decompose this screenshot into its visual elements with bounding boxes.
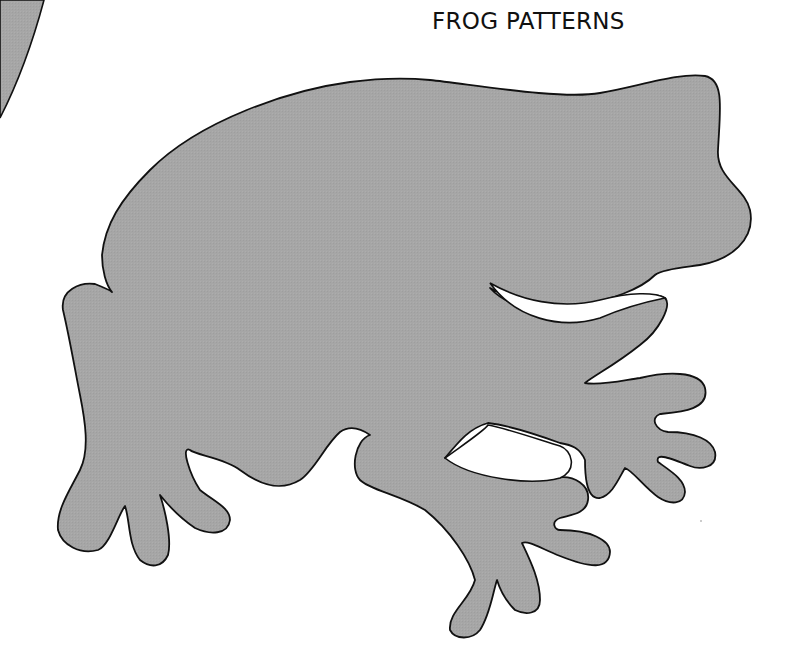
frog-silhouette [58,75,751,637]
print-speck [700,520,702,522]
adjacent-pattern-fragment [0,0,44,118]
pattern-artwork [0,0,799,657]
